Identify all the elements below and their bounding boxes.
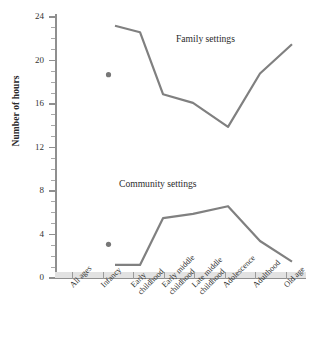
series-svg <box>55 17 305 278</box>
series-label-community: Community settings <box>119 178 197 189</box>
y-tick-label: 0 <box>20 273 44 282</box>
plot-area <box>55 17 305 278</box>
series-point-marker <box>106 72 111 77</box>
y-axis-title: Number of hours <box>11 51 21 171</box>
series-line <box>115 206 292 265</box>
y-tick-label: 20 <box>20 56 44 65</box>
y-tick-label: 8 <box>20 186 44 195</box>
y-tick-label: 4 <box>20 230 44 239</box>
series-point-marker <box>106 242 111 247</box>
series-label-family: Family settings <box>176 33 235 44</box>
line-chart: Number of hours 04812162024 All agesInfa… <box>0 0 317 361</box>
y-tick-label: 16 <box>20 99 44 108</box>
y-tick-label: 12 <box>20 143 44 152</box>
y-tick-label: 24 <box>20 12 44 21</box>
